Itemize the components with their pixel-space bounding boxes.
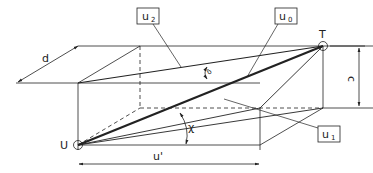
callout-u2: u 2 [137,8,181,67]
label-U: U [60,139,68,152]
label-u-prime: u' [153,150,163,163]
label-chi: χ [188,121,195,134]
svg-text:2: 2 [151,16,155,24]
box-diagram: U T d c u' δ χ u 2 u 0 u 1 [0,0,373,173]
u2-line [78,46,323,83]
svg-text:1: 1 [331,134,335,142]
u1-line [78,108,323,145]
label-delta: δ [205,68,213,77]
svg-text:u: u [142,10,149,23]
svg-text:0: 0 [288,16,292,24]
svg-text:u: u [322,128,329,141]
label-d: d [42,52,49,65]
label-T: T [318,28,326,41]
front-diag [78,108,260,145]
label-c: c [345,76,358,82]
u1-line-top [260,46,323,108]
svg-text:u: u [279,10,286,23]
